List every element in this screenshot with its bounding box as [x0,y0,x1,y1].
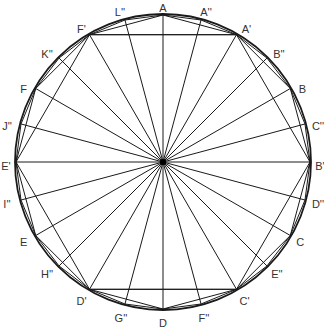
center-point [160,159,166,165]
vertex-label: A'' [200,6,212,18]
radius-line [125,20,163,162]
radius-line [59,162,163,266]
radius-line [125,162,163,304]
radius-line [90,35,164,162]
vertex-label: J'' [2,120,12,132]
diagram-canvas: AA''A'B''BC''B'D''CE''C'F''DG''D'H''EI''… [0,0,324,336]
radius-line [90,162,164,289]
radius-line [36,162,163,236]
radius-line [163,162,305,200]
radius-line [163,162,290,236]
radius-line [163,124,305,162]
vertex-label: F' [77,23,86,35]
radius-line [36,89,163,163]
inscribed-polygons-diagram: AA''A'B''BC''B'D''CE''C'F''DG''D'H''EI''… [0,0,324,336]
vertex-label: B' [315,160,324,172]
radius-line [163,35,237,162]
vertex-label: F [20,83,27,95]
vertex-label: I'' [3,198,10,210]
vertex-label: K'' [41,48,53,60]
radius-line [163,89,290,163]
vertex-label: C [296,236,304,248]
vertex-label: D' [76,295,86,307]
vertex-label: C' [239,295,249,307]
vertex-label: F'' [199,312,210,324]
radius-line [163,162,267,266]
radius-line [163,162,201,304]
radius-line [163,58,267,162]
vertex-label: D [159,317,167,329]
vertex-label: E [20,236,27,248]
radius-line [163,162,237,289]
vertex-label: A [159,2,167,14]
vertex-label: E'' [271,268,283,280]
vertex-label: C'' [312,120,324,132]
center-dot [160,159,166,165]
radius-line [163,20,201,162]
vertex-label: G'' [115,312,128,324]
vertex-label: E' [1,160,10,172]
vertex-label: H'' [41,268,53,280]
vertex-label: D'' [312,198,324,210]
radius-line [59,58,163,162]
radius-line [21,124,163,162]
vertex-label: B'' [273,48,285,60]
vertex-label: A' [242,23,251,35]
vertex-label: B [299,83,306,95]
radius-line [21,162,163,200]
vertex-label: L'' [115,6,125,18]
